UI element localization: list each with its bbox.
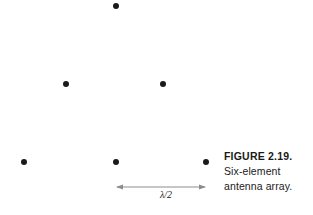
antenna-element-1	[113, 3, 119, 9]
figure-page: λ/2 FIGURE 2.19. Six-element antenna arr…	[0, 0, 313, 215]
figure-caption: FIGURE 2.19. Six-element antenna array.	[224, 149, 313, 194]
antenna-element-2	[63, 81, 69, 87]
antenna-element-4	[21, 159, 27, 165]
figure-caption-line-2: Six-element	[224, 164, 313, 179]
antenna-element-5	[113, 159, 119, 165]
figure-caption-number: FIGURE 2.19.	[224, 149, 313, 164]
antenna-element-3	[160, 81, 166, 87]
spacing-dimension-label: λ/2	[140, 189, 192, 200]
antenna-element-6	[203, 159, 209, 165]
figure-caption-line-3: antenna array.	[224, 179, 313, 194]
